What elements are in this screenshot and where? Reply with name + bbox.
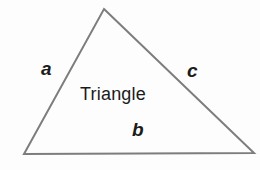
triangle-figure: a c b Triangle: [0, 0, 260, 170]
side-label-a: a: [41, 59, 52, 78]
triangle-interior-label: Triangle: [80, 85, 146, 103]
side-label-b: b: [132, 120, 144, 139]
side-label-c: c: [187, 61, 198, 80]
